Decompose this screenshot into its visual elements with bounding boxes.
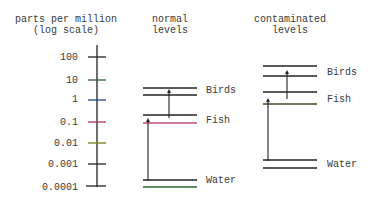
- normal-levels-bands: [143, 88, 197, 187]
- contaminated-levels-bands: [263, 66, 317, 168]
- diagram-canvas: [0, 0, 376, 203]
- log-axis: [86, 45, 106, 187]
